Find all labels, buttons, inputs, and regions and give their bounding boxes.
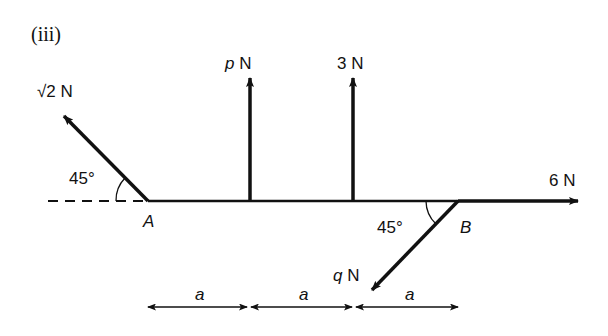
force-label-p: p N <box>225 55 251 72</box>
force-label-6: 6 N <box>549 172 575 189</box>
force-label-sqrt2: √2 N <box>37 83 73 100</box>
angle-arc-A <box>116 178 125 201</box>
angle-arc-B <box>426 201 436 224</box>
dimension-label-1: a <box>195 286 204 303</box>
part-label: (iii) <box>31 24 61 44</box>
dimension-label-2: a <box>299 286 308 303</box>
force-label-3: 3 N <box>337 55 363 72</box>
force-qN-arrow <box>372 201 458 290</box>
point-A-label: A <box>143 213 154 230</box>
unit-q: N <box>342 266 359 285</box>
force-label-q: q N <box>333 267 359 284</box>
force-sqrt2N-arrow <box>64 116 148 201</box>
unit-p: N <box>234 54 251 73</box>
point-B-label: B <box>460 219 471 236</box>
dimension-label-3: a <box>405 286 414 303</box>
angle-label-A: 45° <box>69 170 95 187</box>
angle-label-B: 45° <box>377 219 403 236</box>
